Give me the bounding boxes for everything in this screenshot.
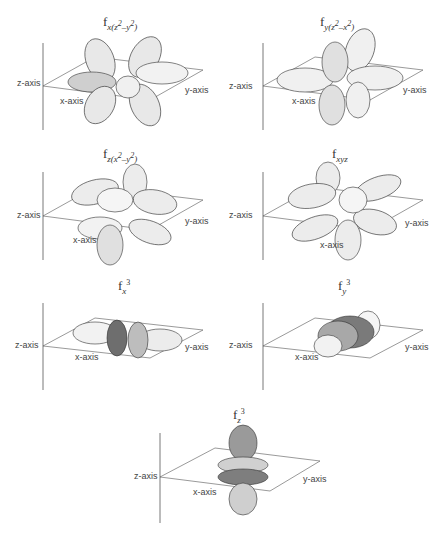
z-axis-label: z-axis xyxy=(17,78,41,88)
z-axis-label: z-axis xyxy=(134,471,158,481)
y-axis-label: y-axis xyxy=(185,342,209,352)
orbital-panel-fx-z2-y2: fx(z2–y2) z-axis x-axis y-axis xyxy=(0,0,220,140)
orbital-panel-fz-x2-y2: fz(x2–y2) z-axis x-axis y-axis xyxy=(0,140,220,280)
orbital-diagram xyxy=(220,140,440,280)
x-axis-label: x-axis xyxy=(193,487,217,497)
orbital-panel-fx3: fx3 z-axis x-axis y-axis xyxy=(0,280,220,405)
x-axis-label: x-axis xyxy=(320,240,344,250)
orbital-diagram xyxy=(220,0,440,140)
y-axis-label: y-axis xyxy=(185,85,209,95)
orbital-diagram xyxy=(0,0,220,140)
orbital-panel-fy3: fy3 z-axis x-axis y-axis xyxy=(220,280,440,405)
y-axis-label: y-axis xyxy=(405,342,429,352)
y-axis-label: y-axis xyxy=(403,85,427,95)
z-axis-label: z-axis xyxy=(229,210,253,220)
orbital-panel-fz3: fz3 z-axis x-axis y-axis xyxy=(110,405,330,536)
x-axis-label: x-axis xyxy=(60,96,84,106)
y-axis-label: y-axis xyxy=(185,216,209,226)
orbital-panel-fy-z2-x2: fy(z2–x2) z-axis x-axis y-axis xyxy=(220,0,440,140)
x-axis-label: x-axis xyxy=(292,96,316,106)
z-axis-label: z-axis xyxy=(229,340,253,350)
z-axis-label: z-axis xyxy=(229,81,253,91)
y-axis-label: y-axis xyxy=(303,474,327,484)
orbital-panel-fxyz: fxyz z-axis x-axis y-axis xyxy=(220,140,440,280)
x-axis-label: x-axis xyxy=(73,235,97,245)
x-axis-label: x-axis xyxy=(75,352,99,362)
y-axis-label: y-axis xyxy=(405,218,429,228)
z-axis-label: z-axis xyxy=(17,210,41,220)
z-axis-label: z-axis xyxy=(15,340,39,350)
x-axis-label: x-axis xyxy=(295,352,319,362)
